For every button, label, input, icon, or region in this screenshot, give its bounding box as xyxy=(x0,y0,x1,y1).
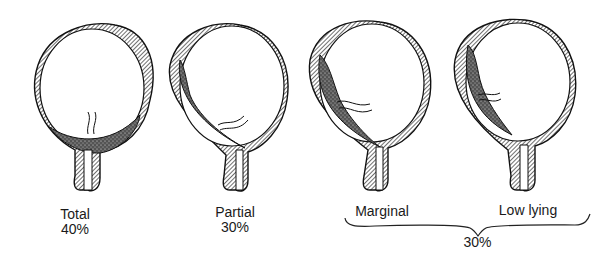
uterus-partial xyxy=(169,24,288,191)
label-marginal: Marginal xyxy=(347,204,417,219)
uterus-total xyxy=(35,24,153,191)
uterus-low-lying xyxy=(454,19,575,190)
label-partial-percent: 30% xyxy=(210,220,260,235)
label-partial-name: Partial xyxy=(210,205,260,220)
uterus-marginal xyxy=(309,21,430,191)
label-total: Total 40% xyxy=(55,207,95,237)
label-low-lying-name: Low lying xyxy=(488,203,568,218)
label-group-percent: 30% xyxy=(455,235,500,250)
label-partial: Partial 30% xyxy=(210,205,260,235)
label-total-percent: 40% xyxy=(55,222,95,237)
group-percent: 30% xyxy=(455,235,500,250)
label-marginal-name: Marginal xyxy=(347,204,417,219)
label-low-lying: Low lying xyxy=(488,203,568,218)
label-total-name: Total xyxy=(55,207,95,222)
